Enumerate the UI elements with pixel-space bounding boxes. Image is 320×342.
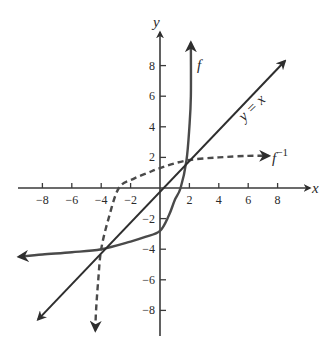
x-axis-label: x <box>311 180 319 196</box>
f-inverse-label: f−1 <box>272 146 288 166</box>
x-tick-label: 2 <box>186 193 192 207</box>
y-tick-label: 2 <box>149 150 155 164</box>
identity-label: y = x <box>234 91 269 126</box>
y-tick-label: 6 <box>149 89 155 103</box>
y-tick-label: −2 <box>142 212 155 226</box>
x-tick-label: 4 <box>216 193 222 207</box>
f-inverse-superscript: −1 <box>276 146 288 158</box>
x-tick-label: −6 <box>65 193 78 207</box>
y-tick-label: 8 <box>149 59 155 73</box>
y-tick-label: −4 <box>142 242 155 256</box>
x-tick-label: 6 <box>245 193 251 207</box>
y-tick-label: 4 <box>149 120 155 134</box>
x-tick-label: −4 <box>95 193 108 207</box>
x-tick-label: −8 <box>36 193 49 207</box>
curve-f <box>19 43 191 257</box>
function-inverse-chart: x y −8−6−4−224688642−2−4−6−8 f y = x f−1 <box>0 0 320 342</box>
y-tick-label: −8 <box>142 303 155 317</box>
axes: x y <box>18 14 319 336</box>
y-axis-label: y <box>151 14 160 30</box>
f-label: f <box>197 57 203 73</box>
x-tick-label: −2 <box>124 193 137 207</box>
y-tick-label: −6 <box>142 273 155 287</box>
x-tick-label: 8 <box>275 193 281 207</box>
plot-curves <box>19 43 285 331</box>
